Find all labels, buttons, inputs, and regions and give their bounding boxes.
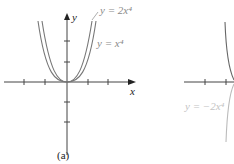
- panel-a-caption: (a): [57, 150, 69, 161]
- label-y-2x4: y = 2x⁴: [100, 5, 132, 16]
- y-axis-label: y: [72, 12, 77, 23]
- curve-y-neg-2x4: [226, 84, 234, 142]
- label-y-neg-2x4: y = −2x⁴: [185, 101, 224, 112]
- y-axis-arrow-icon: [64, 13, 70, 20]
- function-plot: [0, 0, 234, 164]
- x-axis-label: x: [130, 86, 135, 97]
- panel-b-axes: [184, 79, 234, 85]
- curve-b-upper: [225, 22, 234, 80]
- label-y-x4: y = x⁴: [97, 38, 124, 49]
- label-leader-line: [92, 12, 98, 20]
